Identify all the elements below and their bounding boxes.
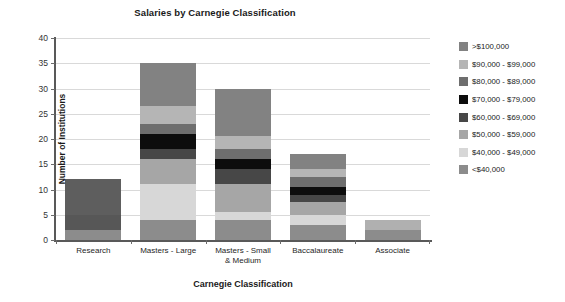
y-tick-label: 35 xyxy=(22,58,48,68)
legend-item[interactable]: $70,000 - $79,000 xyxy=(459,91,563,109)
y-tick-mark xyxy=(51,38,55,39)
x-tick-mark xyxy=(355,240,356,244)
y-tick-mark xyxy=(51,139,55,140)
x-tick-label: Masters - Large xyxy=(131,246,206,256)
y-tick-label: 30 xyxy=(22,84,48,94)
bar-segment xyxy=(140,149,196,159)
legend-swatch-icon xyxy=(459,130,468,139)
legend-swatch-icon xyxy=(459,77,468,86)
legend-item-label: >$100,000 xyxy=(472,42,509,51)
bar-segment xyxy=(215,89,271,137)
y-tick-mark xyxy=(51,63,55,64)
bar-segment xyxy=(290,187,346,195)
legend-swatch-icon xyxy=(459,148,468,157)
legend-item-label: $70,000 - $79,000 xyxy=(472,95,535,104)
legend-item[interactable]: $50,000 - $59,000 xyxy=(459,126,563,144)
bar-segment xyxy=(140,124,196,134)
x-axis-line xyxy=(54,240,432,242)
y-tick-mark xyxy=(51,240,55,241)
x-axis-label: Carnegie Classification xyxy=(56,279,430,289)
bar-segment xyxy=(140,63,196,106)
bar-segment xyxy=(290,195,346,203)
legend-swatch-icon xyxy=(459,95,468,104)
bar-stack xyxy=(215,38,271,240)
bar-segment xyxy=(290,169,346,177)
x-tick-label-line: Associate xyxy=(355,246,430,256)
legend-item-label: <$40,000 xyxy=(472,165,505,174)
legend-item[interactable]: $80,000 - $89,000 xyxy=(459,73,563,91)
legend-item[interactable]: $40,000 - $49,000 xyxy=(459,144,563,162)
x-tick-label: Baccalaureate xyxy=(280,246,355,256)
y-tick-label: 0 xyxy=(22,235,48,245)
x-tick-label-line: Masters - Large xyxy=(131,246,206,256)
y-tick-mark xyxy=(51,114,55,115)
legend-item[interactable]: $90,000 - $99,000 xyxy=(459,56,563,74)
plot-area: Number of Institutions xyxy=(56,38,430,240)
bar-segment xyxy=(140,220,196,240)
legend-item-label: $60,000 - $69,000 xyxy=(472,113,535,122)
legend-swatch-icon xyxy=(459,165,468,174)
x-tick-mark xyxy=(131,240,132,244)
legend-item-label: $40,000 - $49,000 xyxy=(472,148,535,157)
bar-stack xyxy=(65,38,121,240)
bar-segment xyxy=(365,220,421,230)
bar-stack xyxy=(140,38,196,240)
legend-item-label: $50,000 - $59,000 xyxy=(472,130,535,139)
x-tick-label-line: Research xyxy=(56,246,131,256)
y-tick-label: 5 xyxy=(22,210,48,220)
y-tick-mark xyxy=(51,190,55,191)
bar-segment xyxy=(290,225,346,240)
bar-segment xyxy=(290,215,346,225)
x-tick-label: Associate xyxy=(355,246,430,256)
y-tick-label: 20 xyxy=(22,134,48,144)
bar-segment xyxy=(290,202,346,215)
y-axis-label: Number of Institutions xyxy=(57,49,67,229)
legend-item[interactable]: $60,000 - $69,000 xyxy=(459,108,563,126)
legend-swatch-icon xyxy=(459,42,468,51)
bar-segment xyxy=(215,149,271,159)
legend-item-label: $80,000 - $89,000 xyxy=(472,77,535,86)
y-tick-mark xyxy=(51,215,55,216)
bar-segment xyxy=(65,230,121,240)
bar-segment xyxy=(140,134,196,149)
y-tick-label: 40 xyxy=(22,33,48,43)
bar-segment xyxy=(215,136,271,149)
x-tick-label: Research xyxy=(56,246,131,256)
x-tick-label: Masters - Small& Medium xyxy=(206,246,281,266)
legend-swatch-icon xyxy=(459,60,468,69)
x-tick-label-line: & Medium xyxy=(206,256,281,266)
x-tick-label-line: Masters - Small xyxy=(206,246,281,256)
bar-segment xyxy=(65,179,121,214)
x-tick-mark xyxy=(429,240,430,244)
x-tick-mark xyxy=(206,240,207,244)
bar-segment xyxy=(140,159,196,184)
y-tick-label: 15 xyxy=(22,159,48,169)
bar-segment xyxy=(215,184,271,212)
y-tick-label: 25 xyxy=(22,109,48,119)
chart-title: Salaries by Carnegie Classification xyxy=(0,7,430,18)
bar-segment xyxy=(365,230,421,240)
x-tick-label-line: Baccalaureate xyxy=(280,246,355,256)
bar-segment xyxy=(290,177,346,187)
bar-segment xyxy=(215,220,271,240)
bar-stack xyxy=(290,38,346,240)
legend: >$100,000$90,000 - $99,000$80,000 - $89,… xyxy=(459,38,563,179)
bar-segment xyxy=(290,154,346,169)
bar-segment xyxy=(65,215,121,230)
y-tick-label: 10 xyxy=(22,185,48,195)
legend-item[interactable]: <$40,000 xyxy=(459,161,563,179)
bar-segment xyxy=(215,169,271,184)
legend-item[interactable]: >$100,000 xyxy=(459,38,563,56)
y-tick-mark xyxy=(51,89,55,90)
x-tick-mark xyxy=(280,240,281,244)
chart-screenshot: Salaries by Carnegie Classification Numb… xyxy=(0,0,565,302)
bar-segment xyxy=(215,159,271,169)
bar-segment xyxy=(140,106,196,124)
y-tick-mark xyxy=(51,164,55,165)
legend-swatch-icon xyxy=(459,113,468,122)
bar-stack xyxy=(365,38,421,240)
bar-segment xyxy=(140,184,196,219)
bar-segment xyxy=(215,212,271,220)
x-tick-mark xyxy=(56,240,57,244)
legend-item-label: $90,000 - $99,000 xyxy=(472,60,535,69)
